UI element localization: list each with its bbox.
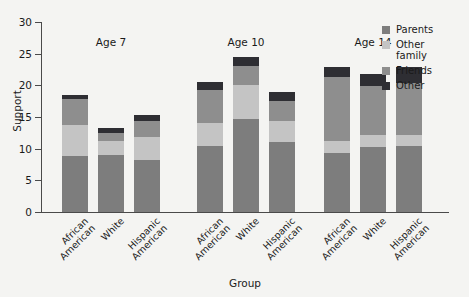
bar-segment <box>98 155 124 212</box>
bar-segment <box>360 135 386 147</box>
y-tick-mark <box>35 212 41 213</box>
bar-segment <box>233 66 259 84</box>
y-tick-mark <box>35 117 41 118</box>
bar-segment <box>324 153 350 212</box>
bar-segment <box>269 121 295 142</box>
bar-stack <box>62 95 88 212</box>
y-tick-label: 0 <box>2 207 32 217</box>
y-tick-label: 30 <box>2 17 32 27</box>
bar-segment <box>62 125 88 156</box>
bar-segment <box>134 121 160 137</box>
bar-segment <box>197 146 223 213</box>
bar-segment <box>98 133 124 141</box>
bar-segment <box>269 101 295 121</box>
legend-label: Other family <box>396 39 427 61</box>
group-title-age-10: Age 10 <box>201 36 291 48</box>
y-tick-label: 25 <box>2 49 32 59</box>
bar-chart: 051015202530 Support Age 7Age 10Age 14 A… <box>0 0 469 297</box>
bar-stack <box>269 92 295 212</box>
bar-segment <box>396 146 422 213</box>
bar-stack <box>98 128 124 212</box>
y-tick-mark <box>35 22 41 23</box>
bar-segment <box>134 137 160 160</box>
legend-swatch <box>382 26 390 34</box>
bar-stack <box>197 82 223 212</box>
legend-swatch <box>382 82 390 90</box>
bar-segment <box>62 99 88 125</box>
x-axis-line <box>41 212 449 213</box>
legend-label: Other <box>396 80 424 91</box>
bar-segment <box>134 160 160 212</box>
y-tick-mark <box>35 149 41 150</box>
bar-segment <box>197 123 223 146</box>
bar-stack <box>134 115 160 212</box>
bar-segment <box>396 135 422 145</box>
legend-item: Other family <box>382 39 468 61</box>
legend-label: Parents <box>396 24 433 35</box>
y-tick-mark <box>35 180 41 181</box>
bar-segment <box>233 119 259 212</box>
bar-segment <box>98 141 124 155</box>
bar-segment <box>233 85 259 119</box>
legend-item: Other <box>382 80 468 91</box>
chart-legend: ParentsOther familyFriendsOther <box>382 24 468 95</box>
legend-swatch <box>382 41 390 49</box>
group-title-age-7: Age 7 <box>66 36 156 48</box>
bar-stack <box>233 57 259 212</box>
bar-segment <box>324 77 350 141</box>
bar-segment <box>360 147 386 212</box>
legend-item: Parents <box>382 24 468 35</box>
bar-segment <box>269 92 295 101</box>
bar-segment <box>197 90 223 122</box>
y-tick-mark <box>35 85 41 86</box>
bar-segment <box>197 82 223 90</box>
bar-stack <box>324 67 350 212</box>
legend-swatch <box>382 67 390 75</box>
y-tick-label: 5 <box>2 175 32 185</box>
bar-segment <box>233 57 259 67</box>
legend-label: Friends <box>396 65 432 76</box>
bar-segment <box>324 67 350 77</box>
bar-segment <box>62 156 88 212</box>
bar-segment <box>324 141 350 153</box>
legend-item: Friends <box>382 65 468 76</box>
x-axis-title: Group <box>41 277 449 289</box>
y-axis-title: Support <box>11 76 23 146</box>
y-tick-mark <box>35 54 41 55</box>
bar-segment <box>269 142 295 212</box>
